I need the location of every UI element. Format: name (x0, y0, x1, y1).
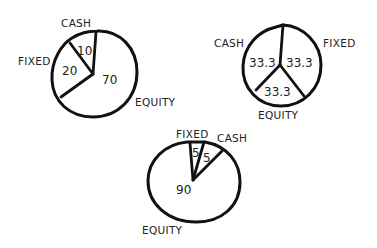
pie-chart-1: 10 20 70 CASH FIXED EQUITY (18, 17, 176, 117)
pie-3-label-cash: CASH (217, 132, 247, 144)
pie-1-label-equity: EQUITY (135, 96, 176, 108)
pie-3-label-equity: EQUITY (142, 224, 183, 236)
pie-1-divider-cash-equity (93, 32, 96, 74)
pie-2-label-cash: CASH (214, 37, 244, 49)
pie-1-value-equity: 70 (102, 73, 117, 87)
pie-1-label-fixed: FIXED (18, 55, 51, 67)
pie-2-value-cash: 33.3 (249, 56, 276, 70)
pie-2-label-equity: EQUITY (258, 109, 299, 121)
pie-2-label-fixed: FIXED (323, 37, 356, 49)
pie-2-value-equity: 33.3 (264, 85, 291, 99)
pie-3-value-cash: 5 (203, 151, 211, 165)
pie-2-value-fixed: 33.3 (286, 56, 313, 70)
pie-3-value-equity: 90 (176, 183, 191, 197)
pie-3-label-fixed: FIXED (176, 128, 209, 140)
pie-chart-2: 33.3 33.3 33.3 CASH FIXED EQUITY (214, 25, 356, 121)
pie-1-value-fixed: 20 (62, 64, 77, 78)
pie-chart-3: 5 5 90 FIXED CASH EQUITY (142, 128, 247, 236)
pie-2-divider-cash-fixed (280, 25, 283, 65)
pie-1-value-cash: 10 (77, 44, 92, 58)
pie-charts-figure: 10 20 70 CASH FIXED EQUITY 33.3 33.3 33.… (0, 0, 377, 248)
pie-1-label-cash: CASH (61, 17, 91, 29)
pie-3-value-fixed: 5 (192, 146, 200, 160)
